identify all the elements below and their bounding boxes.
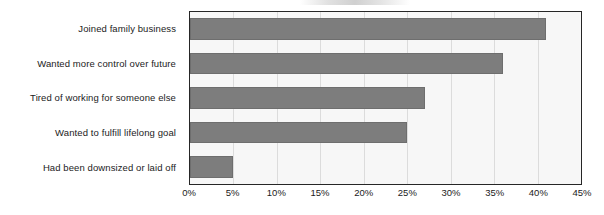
bar: [190, 53, 503, 75]
x-tick-label: 0%: [182, 187, 196, 198]
plot-area: [189, 11, 582, 185]
x-tick-label: 5%: [226, 187, 240, 198]
bar-row: [190, 46, 581, 80]
bar: [190, 122, 407, 144]
bar: [190, 156, 233, 178]
x-tick-label: 10%: [267, 187, 286, 198]
x-tick-label: 20%: [354, 187, 373, 198]
bar: [190, 87, 425, 109]
x-tick-label: 45%: [572, 187, 591, 198]
category-label: Tired of working for someone else: [0, 81, 183, 116]
x-tick-label: 30%: [441, 187, 460, 198]
bar-row: [190, 12, 581, 46]
x-tick-label: 40%: [529, 187, 548, 198]
x-tick-label: 15%: [310, 187, 329, 198]
bar-row: [190, 81, 581, 115]
category-label: Had been downsized or laid off: [0, 150, 183, 185]
x-tick-label: 25%: [398, 187, 417, 198]
bars-layer: [190, 12, 581, 184]
category-axis: Joined family business Wanted more contr…: [0, 11, 183, 185]
bar: [190, 18, 546, 40]
x-tick-label: 35%: [485, 187, 504, 198]
bar-chart: Joined family business Wanted more contr…: [0, 0, 604, 215]
category-label: Wanted to fulfill lifelong goal: [0, 115, 183, 150]
category-label: Joined family business: [0, 11, 183, 46]
bar-row: [190, 150, 581, 184]
value-axis: 0%5%10%15%20%25%30%35%40%45%: [189, 187, 582, 205]
bar-row: [190, 115, 581, 149]
clipped-title-remnant: [300, 0, 410, 5]
category-label: Wanted more control over future: [0, 46, 183, 81]
